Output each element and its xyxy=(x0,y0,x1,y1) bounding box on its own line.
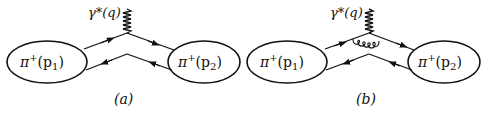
photon-label: γ*(q) xyxy=(330,5,363,20)
photon-label: γ*(q) xyxy=(88,5,121,20)
pion-label-right: π+(p2) xyxy=(177,52,222,72)
gluon-loop xyxy=(353,39,379,48)
quark-line-top xyxy=(84,33,174,50)
caption-b: (b) xyxy=(356,91,376,107)
photon-line xyxy=(123,9,131,33)
caption-a: (a) xyxy=(114,91,133,107)
antiquark-line-bottom xyxy=(326,54,412,70)
antiquark-line-bottom xyxy=(86,54,172,70)
diagram-a: γ*(q) π+(p1) π+(p2) (a) xyxy=(7,5,240,107)
feynman-diagrams: γ*(q) π+(p1) π+(p2) (a) γ*(q) xyxy=(0,0,494,114)
pion-label-left: π+(p1) xyxy=(259,52,304,72)
photon-line xyxy=(365,9,373,33)
pion-label-right: π+(p2) xyxy=(417,52,462,72)
pion-label-left: π+(p1) xyxy=(19,52,64,72)
diagram-b: γ*(q) π+(p1) π+(p2) (b) xyxy=(247,5,480,107)
